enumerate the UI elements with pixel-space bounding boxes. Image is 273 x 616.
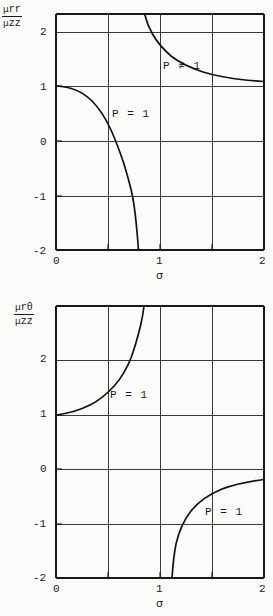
gridlines-bottom: [56, 306, 264, 578]
plot-panel-mu-rtheta: μrθ μzz 2 1 0 -1 -2 0 1 2 σ P = 1 P = 1: [0, 300, 273, 616]
figure-two-plots: μrr μzz 2 1 0 -1 -2 0 1 2 σ P ≠ 1 P = 1: [0, 0, 273, 616]
axis-ticks-top: [56, 86, 212, 250]
curve-p-not-equal-1-top: [145, 14, 264, 82]
curve-p-equals-1-top: [56, 86, 138, 250]
gridlines-top: [56, 14, 264, 250]
plot-panel-mu-rr: μrr μzz 2 1 0 -1 -2 0 1 2 σ P ≠ 1 P = 1: [0, 0, 273, 300]
plot-graphics-bottom: [0, 300, 273, 616]
curve-p-equals-1-right: [172, 480, 264, 579]
axis-ticks-bottom: [56, 415, 212, 578]
plot-graphics-top: [0, 0, 273, 300]
